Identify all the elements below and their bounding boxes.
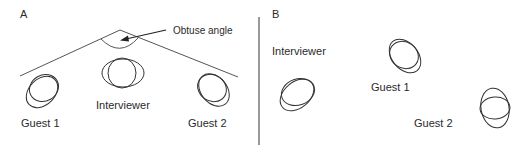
obtuse-angle-label: Obtuse angle bbox=[173, 24, 233, 37]
panel-b-guest1-figure bbox=[383, 33, 427, 79]
panel-b-guest2-figure bbox=[478, 86, 513, 130]
panel-b-letter: B bbox=[272, 8, 279, 21]
panel-a-guest1-label: Guest 1 bbox=[21, 117, 60, 130]
panel-a-guest2-figure bbox=[192, 68, 235, 112]
figure-canvas: A Obtuse angle Guest 1 Interviewer Guest… bbox=[0, 0, 521, 150]
obtuse-angle-arrow bbox=[120, 30, 166, 42]
panel-a-angle bbox=[20, 30, 238, 77]
panel-b-guest2-label: Guest 2 bbox=[414, 117, 453, 130]
panel-b-interviewer-label: Interviewer bbox=[272, 45, 326, 58]
panel-b-interviewer-figure bbox=[274, 73, 320, 117]
panel-a-interviewer-figure bbox=[102, 58, 144, 88]
panel-a-letter: A bbox=[20, 8, 27, 21]
angle-line-right bbox=[120, 30, 238, 77]
panel-b-guest1-label: Guest 1 bbox=[371, 81, 410, 94]
angle-arc bbox=[101, 38, 138, 48]
panel-a-interviewer-label: Interviewer bbox=[96, 99, 150, 112]
angle-line-left bbox=[20, 30, 120, 76]
panel-a-guest2-label: Guest 2 bbox=[188, 117, 227, 130]
panel-a-guest1-figure bbox=[20, 69, 64, 114]
